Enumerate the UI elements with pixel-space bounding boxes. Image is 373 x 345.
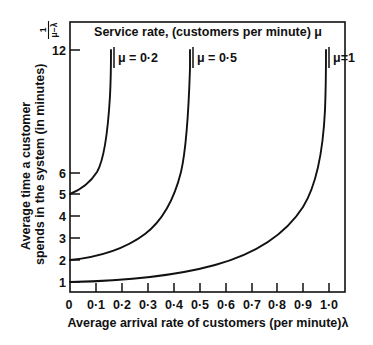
x-tick-label-0-3: 0·3	[139, 298, 157, 312]
x-tick-label-0: 0	[66, 298, 73, 312]
y-axis-label-line2: spends in the system (in minutes)	[33, 64, 47, 265]
y-tick-label-4: 4	[59, 210, 66, 224]
x-tick-label-0-1: 0·1	[87, 298, 105, 312]
formula-numerator: 1	[38, 27, 48, 32]
y-tick-label-6: 6	[59, 167, 66, 181]
x-tick-label-0-7: 0·7	[243, 298, 261, 312]
curve-label-mu-0-2: μ = 0·2	[118, 51, 158, 65]
chart-title: Service rate, (customers per minute) μ	[94, 25, 322, 39]
x-axis-tick-labels: 0 0·1 0·2 0·3 0·4 0·5 0·6 0·7 0·8 0·9 1·…	[66, 298, 339, 312]
formula-denominator: μ−λ	[49, 22, 59, 37]
chart-svg: 12 6 5 4 3 2 1 0 0·1 0·2 0·3 0·4	[0, 0, 373, 345]
y-axis-tick-labels: 12 6 5 4 3 2 1	[52, 44, 66, 290]
x-tick-label-0-4: 0·4	[165, 298, 183, 312]
x-tick-label-0-8: 0·8	[268, 298, 286, 312]
y-axis-label-line1: Average time a customer	[19, 102, 33, 250]
curve-label-mu-0-5: μ = 0·5	[197, 51, 237, 65]
y-tick-label-5: 5	[59, 188, 66, 202]
x-tick-label-0-9: 0·9	[294, 298, 312, 312]
curve-label-mu-1: μ=1	[333, 51, 355, 65]
y-tick-label-3: 3	[59, 232, 66, 246]
x-tick-label-0-6: 0·6	[217, 298, 235, 312]
y-axis-label: Average time a customer spends in the sy…	[19, 64, 47, 265]
x-tick-label-0-5: 0·5	[191, 298, 209, 312]
y-tick-label-2: 2	[59, 254, 66, 268]
y-axis-formula: 1 μ−λ	[38, 21, 59, 39]
y-tick-label-12: 12	[52, 44, 66, 58]
x-tick-label-1-0: 1·0	[320, 298, 338, 312]
y-tick-label-1: 1	[59, 276, 66, 290]
x-tick-label-0-2: 0·2	[113, 298, 131, 312]
chart-figure: 12 6 5 4 3 2 1 0 0·1 0·2 0·3 0·4	[0, 0, 373, 345]
x-axis-label: Average arrival rate of customers (per m…	[68, 316, 349, 330]
